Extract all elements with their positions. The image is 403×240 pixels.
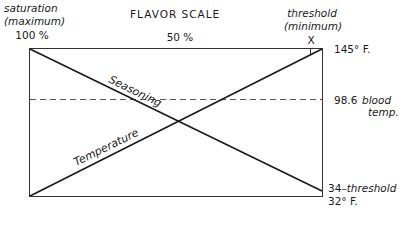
seasoning-label: Seasoning	[107, 73, 164, 110]
threshold-temp-number: 34	[328, 182, 341, 194]
temperature-label: Temperature	[72, 126, 141, 169]
blood-temp-text: blood	[362, 94, 391, 106]
blood-temp-value: 98.6	[334, 94, 357, 106]
threshold-temp-value: 34–threshold	[328, 182, 396, 194]
max-temp-label: 145° F.	[334, 43, 370, 55]
min-temp-label: 32° F.	[328, 195, 358, 207]
blood-temp-text2: temp.	[368, 106, 399, 118]
threshold-temp-text: –threshold	[341, 182, 396, 194]
